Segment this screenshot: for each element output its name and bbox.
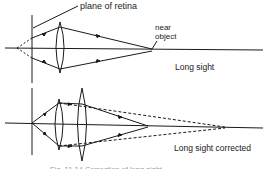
long-sight-diagram: plane of retina near object Long sight L… <box>0 0 270 169</box>
long-sight-corrected-caption: Long sight corrected <box>174 143 251 153</box>
ray-lower-virtual <box>17 48 32 58</box>
ray-upper <box>82 104 148 126</box>
plane-of-retina-label: plane of retina <box>80 1 137 11</box>
near-object-label-line1: near <box>155 23 171 32</box>
ray-upper-virtual <box>17 38 32 48</box>
near-object-label-line2: object <box>155 32 177 41</box>
retina-label-pointer <box>33 6 78 28</box>
long-sight-uncorrected <box>5 6 263 83</box>
optical-axis <box>5 48 263 50</box>
dashed-ray-upper <box>59 103 225 127</box>
eye-lens <box>56 22 64 73</box>
ray-lower <box>82 127 148 146</box>
long-sight-caption: Long sight <box>175 62 215 72</box>
ray-upper <box>60 27 152 49</box>
near-object-pointer <box>152 41 157 49</box>
figure-caption: Fig. 11.14 Correction of long sight <box>50 165 163 169</box>
ray-lower <box>60 51 152 69</box>
